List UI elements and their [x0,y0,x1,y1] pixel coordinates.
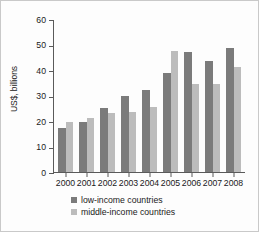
y-axis-tick-label: 60 [36,15,46,25]
bar [79,122,87,172]
bar [234,67,242,172]
legend-item[interactable]: middle-income countries [71,207,189,217]
x-axis-tick [86,172,87,177]
x-axis-tick-label: 2006 [182,178,201,188]
x-axis-tick [128,172,129,177]
bar-group: 2004 [139,20,160,172]
legend-swatch-icon [71,209,78,216]
bar-groups: 200020012002200320042005200620072008 [54,20,245,172]
bar [66,122,74,172]
x-axis-tick [212,172,213,177]
bar [205,61,213,172]
chart-legend: low-income countriesmiddle-income countr… [1,195,258,217]
x-axis-tick [107,172,108,177]
bar-group: 2005 [160,20,181,172]
bar [129,112,137,172]
x-axis-tick-label: 2003 [119,178,138,188]
bar-group: 2006 [181,20,202,172]
bar-group: 2000 [55,20,76,172]
x-axis-tick [191,172,192,177]
y-axis-tick: 0 [49,173,54,174]
bar [58,128,66,172]
y-axis-tick-label: 50 [36,40,46,50]
x-axis-tick-label: 2000 [56,178,75,188]
bar [192,84,200,172]
bar [108,113,116,172]
x-axis-tick-label: 2004 [140,178,159,188]
x-axis-tick-label: 2005 [161,178,180,188]
x-axis-tick-label: 2001 [77,178,96,188]
bar-group: 2003 [118,20,139,172]
legend-swatch-icon [71,197,78,204]
y-axis-tick-label: 20 [36,117,46,127]
bar-group: 2001 [76,20,97,172]
y-axis-tick-label: 10 [36,142,46,152]
bar-group: 2008 [223,20,244,172]
bar [100,108,108,172]
bar [163,73,171,172]
bar [171,51,179,172]
y-axis-title: US$, billions [5,1,23,176]
bar [121,96,129,172]
bar [226,48,234,172]
plot-area: 0102030405060 20002001200220032004200520… [53,20,245,173]
legend-label: middle-income countries [81,207,175,217]
bar [142,90,150,172]
x-axis-tick [65,172,66,177]
y-axis-tick-label: 40 [36,66,46,76]
bar-group: 2007 [202,20,223,172]
y-axis-tick-label: 30 [36,91,46,101]
bar-group: 2002 [97,20,118,172]
x-axis-tick-label: 2002 [98,178,117,188]
x-axis-tick-label: 2008 [224,178,243,188]
x-axis-tick [170,172,171,177]
bar [184,52,192,172]
y-axis-title-text: US$, billions [9,66,19,112]
legend-label: low-income countries [81,195,163,205]
bar [150,107,158,172]
legend-item[interactable]: low-income countries [71,195,189,205]
bar-chart-figure: US$, billions 0102030405060 200020012002… [0,0,259,232]
x-axis-tick [149,172,150,177]
x-axis-tick [233,172,234,177]
y-axis-tick-label: 0 [41,168,46,178]
bar [87,118,95,172]
x-axis-tick-label: 2007 [203,178,222,188]
bar [213,84,221,172]
